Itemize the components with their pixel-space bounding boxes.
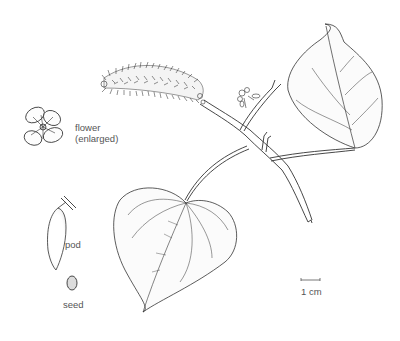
- botanical-illustration: flower (enlarged) pod seed 1 cm: [0, 0, 400, 341]
- flower-enlarged-label: (enlarged): [75, 133, 118, 144]
- lower-heart-leaf: [114, 188, 237, 312]
- pod-drawing: [47, 196, 76, 270]
- upper-right-leaf: [288, 24, 382, 148]
- pod-label: pod: [65, 239, 81, 250]
- flower-spike: [101, 62, 205, 104]
- plant-drawing: [0, 0, 400, 341]
- flower-label: flower: [75, 122, 100, 133]
- seed-label: seed: [63, 299, 84, 310]
- seed-drawing: [67, 276, 77, 290]
- flower-enlarged-drawing: [22, 104, 65, 148]
- scale-bar: [301, 278, 320, 281]
- scale-label: 1 cm: [301, 286, 322, 297]
